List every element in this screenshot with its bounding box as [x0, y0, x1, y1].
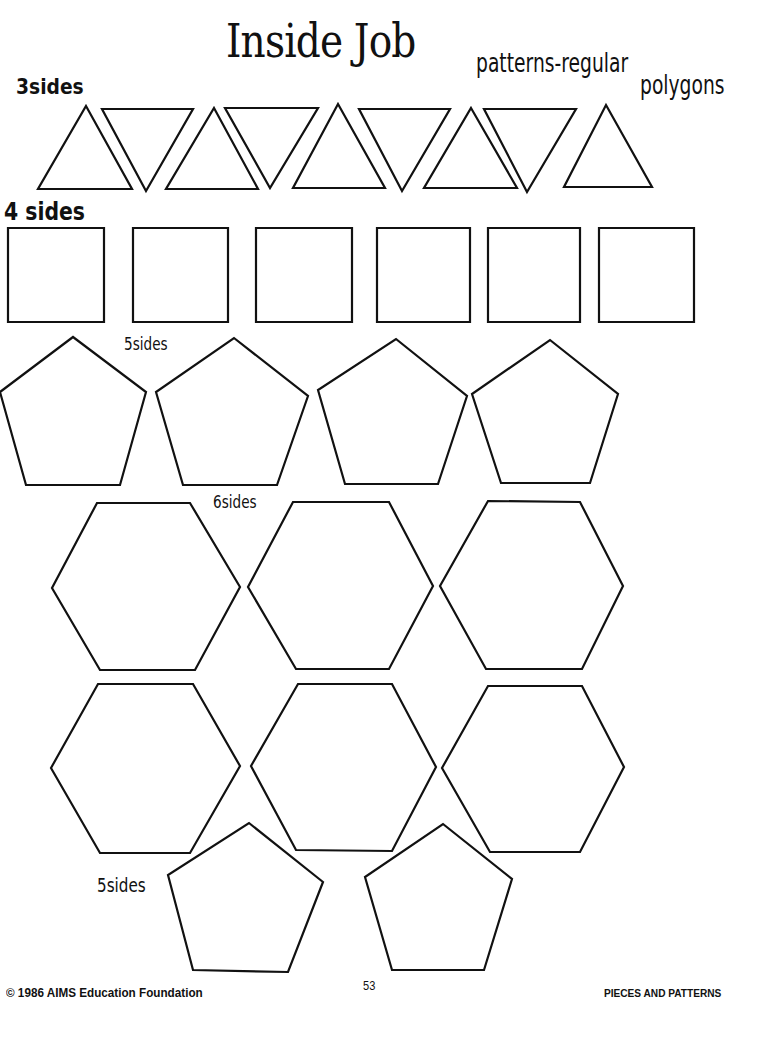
pentagon-shape: [156, 338, 308, 485]
label-four-sides: 4 sides: [4, 198, 85, 226]
hexagon-shape: [51, 684, 240, 853]
pentagon-shape: [0, 337, 146, 485]
footer-page-number: 53: [363, 978, 375, 993]
label-three-sides: 3sides: [16, 74, 84, 99]
pentagon-shape: [318, 339, 467, 484]
pentagon-row-top: [0, 337, 618, 485]
hexagon-shape: [440, 501, 623, 669]
square-shape: [377, 228, 470, 322]
page-subtitle-line2: polygons: [640, 70, 725, 100]
hexagon-row-1: [52, 501, 623, 670]
square-shape: [599, 228, 694, 322]
label-six-sides: 6sides: [213, 492, 257, 512]
triangle-shape: [564, 105, 652, 187]
hexagon-shape: [248, 502, 433, 669]
pentagon-shape: [472, 340, 618, 483]
hexagon-shape: [442, 686, 624, 852]
hexagon-shape: [52, 503, 240, 670]
hexagon-shape: [251, 684, 436, 851]
triangle-row: [38, 104, 652, 192]
square-shape: [256, 228, 352, 322]
square-row: [8, 228, 694, 322]
footer-copyright: © 1986 AIMS Education Foundation: [6, 985, 203, 1000]
square-shape: [133, 228, 228, 322]
hexagon-row-2: [51, 684, 624, 853]
page-subtitle-line1: patterns-regular: [476, 48, 628, 78]
square-shape: [488, 228, 580, 322]
square-shape: [8, 228, 104, 322]
label-five-sides-bottom: 5sides: [97, 874, 146, 896]
page-title: Inside Job: [226, 14, 416, 68]
label-five-sides-top: 5sides: [124, 334, 168, 354]
footer-book-title: PIECES AND PATTERNS: [604, 987, 721, 999]
